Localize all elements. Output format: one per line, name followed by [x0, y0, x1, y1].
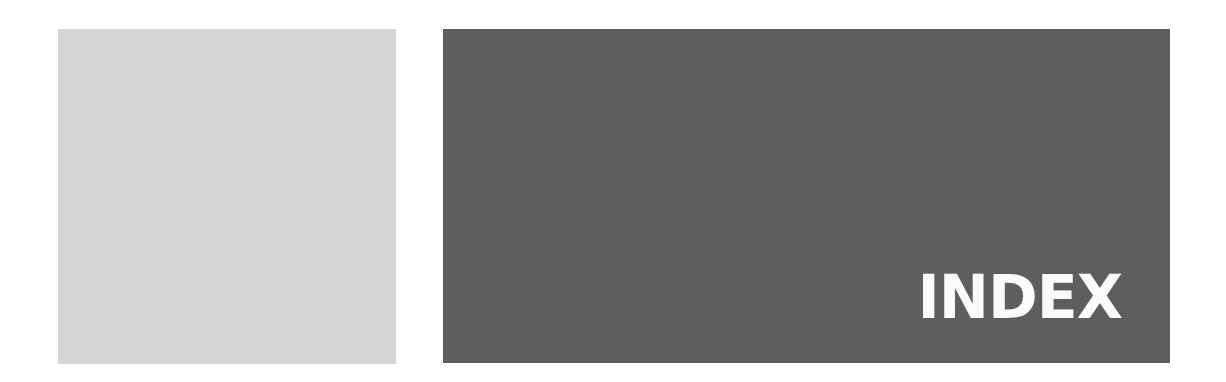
section-title: INDEX [917, 267, 1122, 327]
light-gray-panel [58, 29, 396, 364]
dark-title-panel: INDEX [443, 29, 1170, 363]
